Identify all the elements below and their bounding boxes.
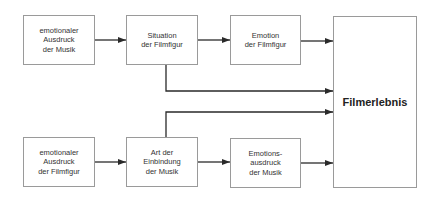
arrow-situation-to-filmerlebnis — [166, 64, 333, 91]
node-filmerlebnis: Filmerlebnis — [333, 16, 417, 188]
node-emotion-der-filmfigur: Emotion der Filmfigur — [230, 15, 301, 65]
node-label: Art der Einbindung der Musik — [143, 148, 181, 177]
node-label: Emotions- ausdruck der Musik — [249, 149, 283, 178]
node-label: Emotion der Filmfigur — [245, 31, 287, 50]
node-label: Filmerlebnis — [343, 96, 408, 109]
arrow-einbindung-to-filmerlebnis — [166, 112, 333, 137]
node-situation-der-filmfigur: Situation der Filmfigur — [126, 15, 198, 65]
node-emotionaler-ausdruck-der-musik: emotionaler Ausdruck der Musik — [23, 15, 95, 65]
node-emotionaler-ausdruck-der-filmfigur: emotionaler Ausdruck der Filmfigur — [23, 137, 95, 187]
node-label: Situation der Filmfigur — [141, 31, 183, 50]
node-label: emotionaler Ausdruck der Filmfigur — [38, 148, 80, 177]
node-emotionsausdruck-der-musik: Emotions- ausdruck der Musik — [230, 138, 301, 188]
node-label: emotionaler Ausdruck der Musik — [39, 26, 78, 55]
node-art-der-einbindung-der-musik: Art der Einbindung der Musik — [126, 137, 198, 187]
